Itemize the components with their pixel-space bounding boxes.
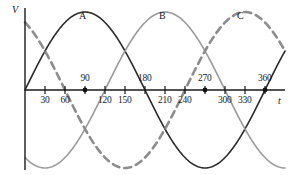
tick-label-120: 120 <box>98 95 112 105</box>
sine-wave-figure: V t 306012015021024030033090180270360 AB… <box>0 0 291 175</box>
tick-label-210: 210 <box>158 95 172 105</box>
plot-area <box>0 0 291 175</box>
curve-label-a: A <box>79 10 86 21</box>
tick-label-60: 60 <box>61 95 70 105</box>
tick-label-150: 150 <box>118 95 132 105</box>
tick-label-270: 270 <box>198 73 212 83</box>
curve-label-b: B <box>159 10 166 21</box>
axis-dot-360 <box>263 88 268 93</box>
tick-label-240: 240 <box>178 95 192 105</box>
y-axis-label: V <box>12 4 18 15</box>
tick-label-360: 360 <box>258 73 272 83</box>
curve-label-c: C <box>237 10 244 21</box>
axis-dot-270 <box>203 88 208 93</box>
tick-label-90: 90 <box>81 73 90 83</box>
axis-dot-90 <box>83 88 88 93</box>
tick-label-30: 30 <box>41 95 50 105</box>
tick-label-180: 180 <box>138 73 152 83</box>
x-axis-label: t <box>278 95 281 106</box>
tick-label-300: 300 <box>218 95 232 105</box>
tick-label-330: 330 <box>238 95 252 105</box>
